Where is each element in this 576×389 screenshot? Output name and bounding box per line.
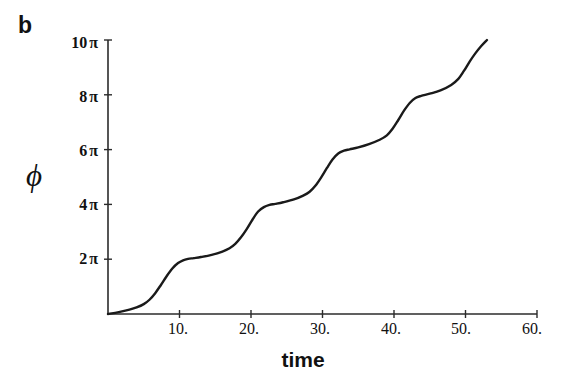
phase-curve <box>108 40 487 314</box>
figure-panel-b: b ϕ time 10π 8π 6π 4π 2π 10. 20. 30. 40.… <box>0 0 576 389</box>
plot-canvas <box>0 0 576 389</box>
